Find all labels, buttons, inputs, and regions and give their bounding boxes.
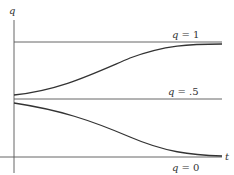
x-axis-label: t <box>225 151 230 162</box>
curve-falling <box>14 103 222 156</box>
label-q-0: q= 0 <box>172 162 199 173</box>
label-q-1: q= 1 <box>172 29 199 40</box>
label-q-half: q= .5 <box>168 86 199 97</box>
phase-diagram: q t q= 1 q= .5 q= 0 <box>0 0 234 175</box>
y-axis-label: q <box>9 5 15 16</box>
